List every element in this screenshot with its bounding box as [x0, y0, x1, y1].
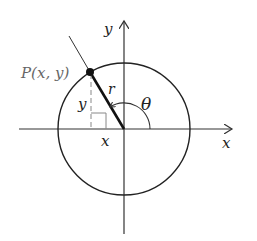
unit-circle-diagram: P(x, y) y x x y r θ: [0, 0, 257, 241]
radius-segment: [90, 72, 124, 129]
y-leg-label: y: [77, 95, 87, 113]
terminal-ray-extension: [69, 36, 90, 72]
radius-label: r: [108, 81, 116, 97]
point-p-label: P(x, y): [20, 64, 69, 82]
y-axis-label: y: [103, 20, 113, 38]
x-axis-label: x: [222, 134, 231, 152]
right-angle-marker: [91, 113, 106, 129]
point-p-dot: [86, 68, 94, 76]
x-leg-label: x: [101, 132, 110, 150]
theta-label: θ: [141, 94, 151, 114]
